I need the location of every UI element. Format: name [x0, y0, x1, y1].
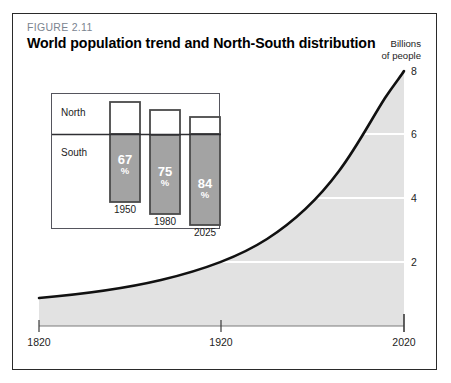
bar-value-percent-1980: %: [150, 177, 180, 188]
bar-value-number-1980: 75: [150, 166, 180, 177]
inset-label-south: South: [61, 147, 87, 158]
figure-frame: FIGURE 2.11 World population trend and N…: [12, 13, 437, 370]
bar-value-percent-2025: %: [190, 189, 220, 200]
y-axis-caption-line1: Billions: [343, 38, 421, 50]
bar-value-number-2025: 84: [190, 178, 220, 189]
y-tick-label-8: 8: [411, 65, 417, 77]
bar-value-2025: 84 %: [190, 178, 220, 200]
north-south-inset-panel: North South 67 % 75 % 84 % 1950 1980 202…: [51, 93, 220, 229]
bar-value-1980: 75 %: [150, 166, 180, 188]
y-axis-caption-line2: of people: [343, 50, 421, 62]
bar-value-number-1950: 67: [110, 154, 140, 165]
bar-value-1950: 67 %: [110, 154, 140, 176]
bar-north-1980: [150, 110, 180, 135]
x-axis: [39, 314, 404, 332]
y-tick-label-6: 6: [411, 128, 417, 140]
bar-year-label-2025: 2025: [185, 227, 225, 238]
y-axis-caption: Billions of people: [343, 38, 421, 61]
bar-value-percent-1950: %: [110, 165, 140, 176]
bar-year-label-1950: 1950: [105, 204, 145, 215]
bar-year-label-1980: 1980: [145, 216, 185, 227]
x-tick-label-1820: 1820: [19, 336, 59, 348]
x-tick-label-1920: 1920: [201, 336, 241, 348]
y-tick-label-2: 2: [411, 256, 417, 268]
bar-north-2025: [190, 117, 220, 134]
x-tick-label-2020: 2020: [384, 336, 424, 348]
inset-label-north: North: [61, 107, 85, 118]
chart-title: World population trend and North-South d…: [27, 35, 375, 51]
figure-number-label: FIGURE 2.11: [27, 21, 93, 33]
y-tick-label-4: 4: [411, 192, 417, 204]
bar-north-1950: [110, 102, 140, 134]
